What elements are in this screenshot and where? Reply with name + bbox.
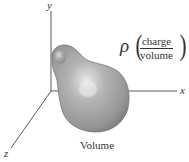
fraction-numerator: charge — [140, 36, 173, 49]
z-axis-label: z — [4, 148, 8, 159]
volume-lobe-highlight — [54, 50, 66, 64]
z-axis — [11, 91, 51, 148]
volume-caption: Volume — [80, 140, 114, 151]
diagram-canvas: y x z ρ ( charge volume ) Volume — [0, 0, 189, 162]
density-symbol: ρ — [120, 36, 129, 55]
diagram-graphics — [0, 0, 189, 162]
volume-body-highlight — [79, 81, 97, 97]
density-fraction: charge volume — [140, 36, 173, 61]
y-axis-label: y — [47, 0, 52, 11]
right-paren: ) — [180, 30, 187, 60]
fraction-denominator: volume — [140, 49, 173, 61]
x-axis-label: x — [180, 85, 185, 96]
